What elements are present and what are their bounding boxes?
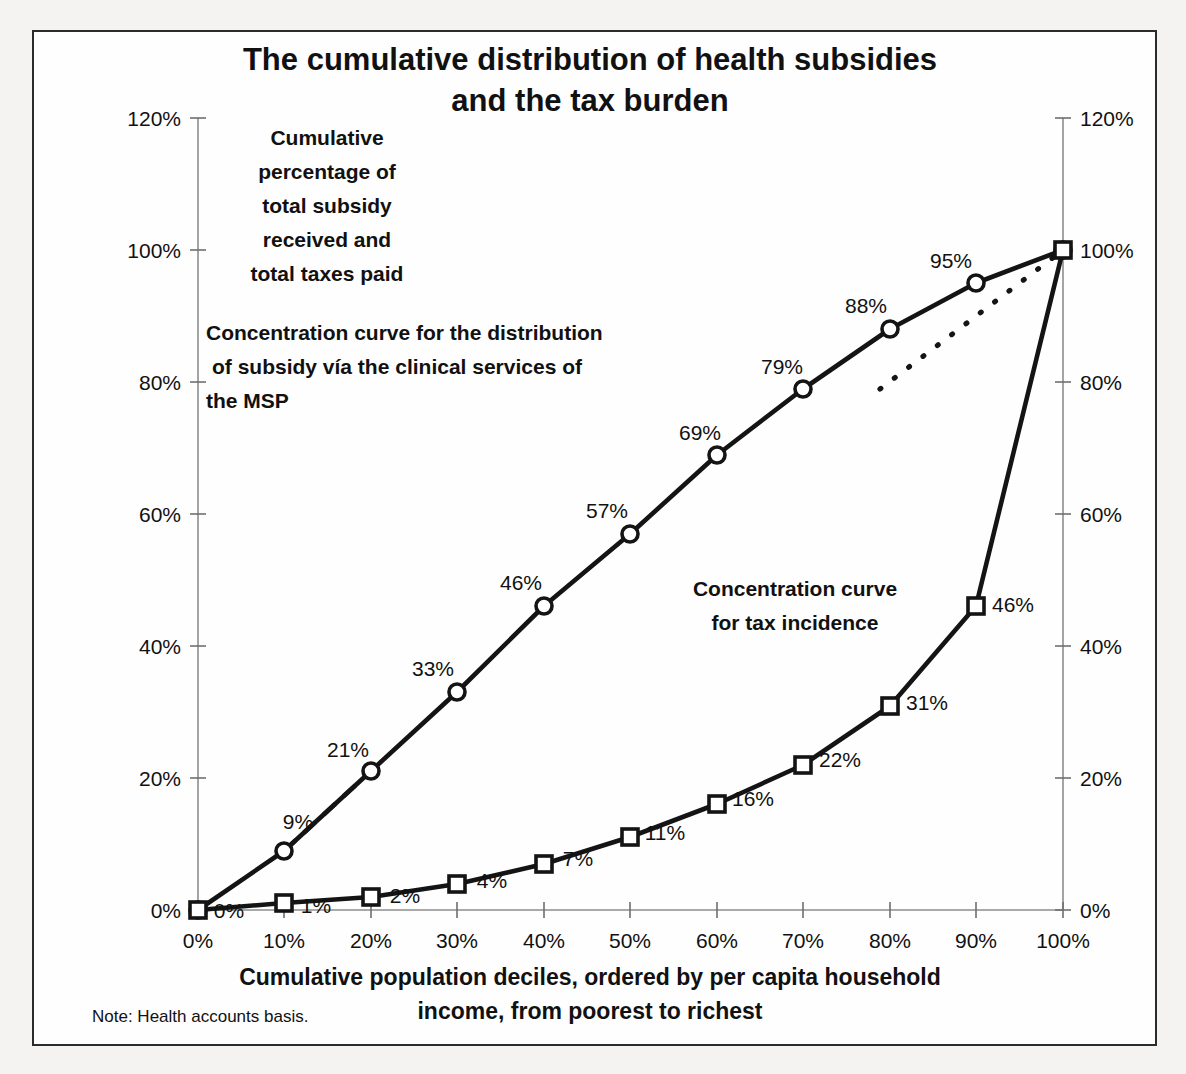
x-tick-1: 10% [263,929,305,952]
x-tick-6: 60% [696,929,738,952]
y-axis-right-ticklabels: 0% 20% 40% 60% 80% 100% 120% [1080,107,1134,922]
y-tick-left-3: 60% [139,503,181,526]
chart-title-line-2: and the tax burden [451,83,728,118]
tax-label-20: 2% [390,884,420,907]
subsidy-label-30: 33% [412,657,454,680]
subsidy-label-50: 57% [586,499,628,522]
x-tick-2: 20% [350,929,392,952]
x-axis-title: Cumulative population deciles, ordered b… [239,964,941,1024]
subsidy-series-annotation: Concentration curve for the distribution… [206,321,603,412]
x-tick-3: 30% [436,929,478,952]
y-axis-label-line-2: total subsidy [262,194,392,217]
y-tick-right-1: 20% [1080,767,1122,790]
tax-label-0: 0% [214,899,244,922]
chart-title-line-1: The cumulative distribution of health su… [243,42,937,77]
x-tick-9: 90% [955,929,997,952]
subsidy-annotation-line-2: the MSP [206,389,289,412]
subsidy-label-20: 21% [327,738,369,761]
y-tick-left-6: 120% [127,107,181,130]
subsidy-annotation-line-1: of subsidy vía the clinical services of [212,355,583,378]
tax-label-30: 4% [477,869,507,892]
x-tick-0: 0% [183,929,213,952]
y-axis-label-line-0: Cumulative [270,126,383,149]
chart-canvas: The cumulative distribution of health su… [0,0,1186,1074]
y-tick-left-0: 0% [151,899,181,922]
y-axis-label-line-1: percentage of [258,160,397,183]
chart-note: Note: Health accounts basis. [92,1007,308,1026]
x-axis-ticklabels: 0% 10% 20% 30% 40% 50% 60% 70% 80% 90% 1… [183,929,1090,952]
tax-label-60: 16% [732,787,774,810]
y-axis-label-line-4: total taxes paid [251,262,404,285]
y-axis-label: Cumulative percentage of total subsidy r… [251,126,404,285]
tax-label-70: 22% [819,748,861,771]
subsidy-annotation-line-0: Concentration curve for the distribution [206,321,603,344]
x-axis-title-line-2: income, from poorest to richest [417,998,762,1024]
y-tick-right-6: 120% [1080,107,1134,130]
x-axis-title-line-1: Cumulative population deciles, ordered b… [239,964,941,990]
tax-label-10: 1% [301,894,331,917]
tax-series-annotation: Concentration curve for tax incidence [693,577,897,634]
tax-label-40: 7% [563,847,593,870]
x-tick-10: 100% [1036,929,1090,952]
y-tick-right-4: 80% [1080,371,1122,394]
tax-annotation-line-1: for tax incidence [712,611,879,634]
y-tick-right-0: 0% [1080,899,1110,922]
y-tick-left-2: 40% [139,635,181,658]
x-tick-7: 70% [782,929,824,952]
subsidy-label-80: 88% [845,294,887,317]
x-tick-8: 80% [869,929,911,952]
x-tick-4: 40% [523,929,565,952]
y-tick-right-3: 60% [1080,503,1122,526]
y-axis-left-ticklabels: 0% 20% 40% 60% 80% 100% 120% [127,107,181,922]
subsidy-label-60: 69% [679,421,721,444]
chart-title: The cumulative distribution of health su… [243,42,937,118]
y-tick-left-5: 100% [127,239,181,262]
subsidy-label-90: 95% [930,249,972,272]
subsidy-label-70: 79% [761,355,803,378]
y-tick-right-5: 100% [1080,239,1134,262]
y-tick-right-2: 40% [1080,635,1122,658]
subsidy-label-40: 46% [500,571,542,594]
y-axis-label-line-3: received and [263,228,391,251]
subsidy-label-10: 9% [283,810,313,833]
tax-label-80: 31% [906,691,948,714]
tax-label-50: 11% [645,821,685,844]
x-tick-5: 50% [609,929,651,952]
y-tick-left-4: 80% [139,371,181,394]
tax-annotation-line-0: Concentration curve [693,577,897,600]
y-tick-left-1: 20% [139,767,181,790]
tax-label-90: 46% [992,593,1034,616]
